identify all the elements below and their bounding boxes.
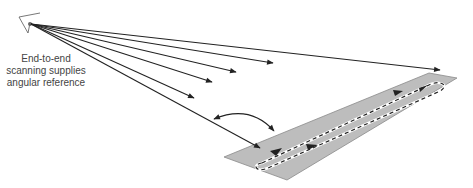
scan-rays: [31, 24, 440, 148]
caption-line: angular reference: [6, 77, 86, 89]
caption-line: scanning supplies: [6, 65, 86, 77]
scanner-icon: [19, 13, 40, 33]
caption-text: End-to-end scanning supplies angular ref…: [6, 53, 86, 89]
scanning-diagram: [0, 0, 473, 188]
diagram-canvas: End-to-end scanning supplies angular ref…: [0, 0, 473, 188]
caption-line: End-to-end: [6, 53, 86, 65]
